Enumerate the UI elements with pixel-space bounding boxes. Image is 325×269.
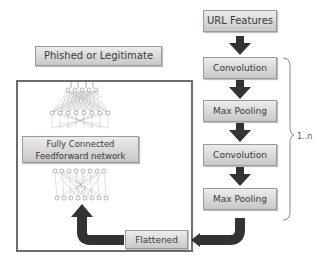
max-pooling-box-2: Max Pooling (203, 188, 277, 210)
elbow-arrow-to-network-icon (82, 216, 124, 240)
elbow-arrow-to-flattened-icon (200, 218, 240, 240)
network-output-arrows-icon (71, 82, 93, 88)
convolution-label-2: Convolution (213, 149, 267, 161)
output-label: Phished or Legitimate (44, 50, 153, 62)
url-features-box: URL Features (203, 10, 277, 32)
fully-connected-box: Fully Connected Feedforward network (22, 136, 139, 163)
max-pooling-label-2: Max Pooling (213, 193, 267, 205)
arrowhead-left-icon (191, 233, 200, 247)
url-features-label: URL Features (207, 15, 273, 27)
max-pooling-label-1: Max Pooling (213, 105, 267, 117)
output-phished-or-legitimate-box: Phished or Legitimate (35, 46, 162, 66)
flattened-label: Flattened (135, 234, 178, 246)
fully-connected-label: Fully Connected Feedforward network (27, 138, 134, 162)
arrowhead-up-icon (71, 204, 93, 217)
upper-network-icon (52, 90, 108, 128)
diagram-graphics (0, 0, 325, 269)
repeat-count-label: 1..n (297, 132, 312, 141)
convolution-label-1: Convolution (213, 62, 267, 74)
lower-network-icon (55, 171, 106, 198)
flattened-box: Flattened (125, 230, 188, 249)
curly-brace-icon (283, 58, 294, 220)
max-pooling-box-1: Max Pooling (203, 100, 277, 122)
convolution-box-1: Convolution (203, 57, 277, 79)
convolution-box-2: Convolution (203, 144, 277, 166)
